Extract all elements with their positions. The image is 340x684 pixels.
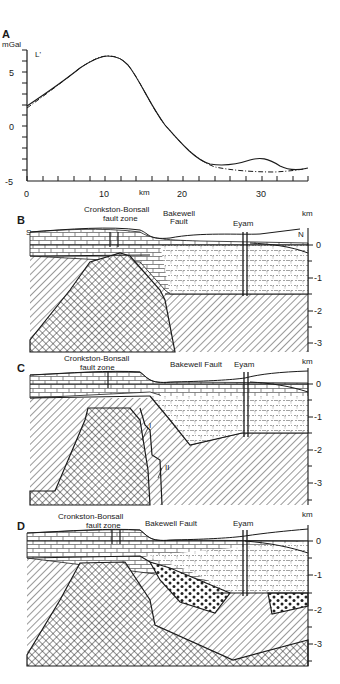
annotation-eyam: Eyam xyxy=(233,519,254,528)
depth-tick-3: -3 xyxy=(314,338,322,348)
annotation-eyam: Eyam xyxy=(234,360,255,369)
fault-mark-ii: II xyxy=(165,463,169,472)
panel-c-cross-section: C Cronkston-Bonsall fault zone Bakewell … xyxy=(17,354,322,505)
depth-tick-0: 0 xyxy=(316,240,321,250)
annotation-bakewell-fault: Bakewell Fault xyxy=(170,360,223,369)
depth-tick-2: -2 xyxy=(314,306,322,316)
x-tick-30: 30 xyxy=(256,189,266,199)
panel-a-gravity-chart: A mGal L' 5 0 -5 0 1 xyxy=(2,28,308,199)
depth-tick-1: -1 xyxy=(314,570,322,580)
dolomitic-strata xyxy=(160,245,308,294)
annotation-cronkston-bonsall: Cronkston-Bonsall xyxy=(58,512,124,521)
panel-d-label: D xyxy=(17,520,25,532)
y-axis-unit: mGal xyxy=(2,40,21,49)
geological-figure: A mGal L' 5 0 -5 0 1 xyxy=(0,0,340,684)
panel-b-cross-section: B Cronkston-Bonsall fault zone Bakewell … xyxy=(17,205,322,352)
annotation-fault-zone: fault zone xyxy=(103,214,138,223)
panel-a-label: A xyxy=(2,28,10,40)
y-axis-ticks xyxy=(22,50,27,170)
annotation-fault: Fault xyxy=(170,217,189,226)
x-axis-unit: km xyxy=(139,188,150,197)
annotation-fault-zone: fault zone xyxy=(80,363,115,372)
depth-tick-1: -1 xyxy=(314,273,322,283)
annotation-fault-zone: fault zone xyxy=(86,521,121,530)
depth-tick-3: -3 xyxy=(314,478,322,488)
depth-unit: km xyxy=(302,510,313,519)
annotation-cronkston-bonsall: Cronkston-Bonsall xyxy=(84,205,150,214)
annotation-eyam: Eyam xyxy=(233,219,254,228)
curve-label: L' xyxy=(35,50,41,59)
x-axis-ticks xyxy=(27,176,308,181)
depth-unit: km xyxy=(302,209,313,218)
annotation-bakewell-fault: Bakewell Fault xyxy=(145,519,198,528)
x-tick-20: 20 xyxy=(177,189,187,199)
depth-tick-2: -2 xyxy=(314,605,322,615)
y-tick-5: 5 xyxy=(9,68,14,78)
panel-c-label: C xyxy=(17,362,25,374)
north-end-label: N xyxy=(298,230,304,239)
calculated-curve-dashdot xyxy=(27,56,308,172)
y-tick-minus5: -5 xyxy=(5,177,13,187)
depth-tick-3: -3 xyxy=(314,639,322,649)
depth-unit: km xyxy=(302,357,313,366)
depth-tick-1: -1 xyxy=(314,412,322,422)
y-tick-0: 0 xyxy=(9,122,14,132)
panel-b-label: B xyxy=(17,214,25,226)
fault-mark-i: I xyxy=(149,421,151,430)
depth-tick-0: 0 xyxy=(316,379,321,389)
observed-curve xyxy=(27,56,308,170)
depth-tick-0: 0 xyxy=(316,536,321,546)
annotation-cronkston-bonsall: Cronkston-Bonsall xyxy=(64,354,130,363)
depth-tick-2: -2 xyxy=(314,445,322,455)
x-tick-0: 0 xyxy=(24,189,29,199)
panel-d-cross-section: D Cronkston-Bonsall fault zone Bakewell … xyxy=(17,510,322,666)
x-tick-10: 10 xyxy=(99,189,109,199)
